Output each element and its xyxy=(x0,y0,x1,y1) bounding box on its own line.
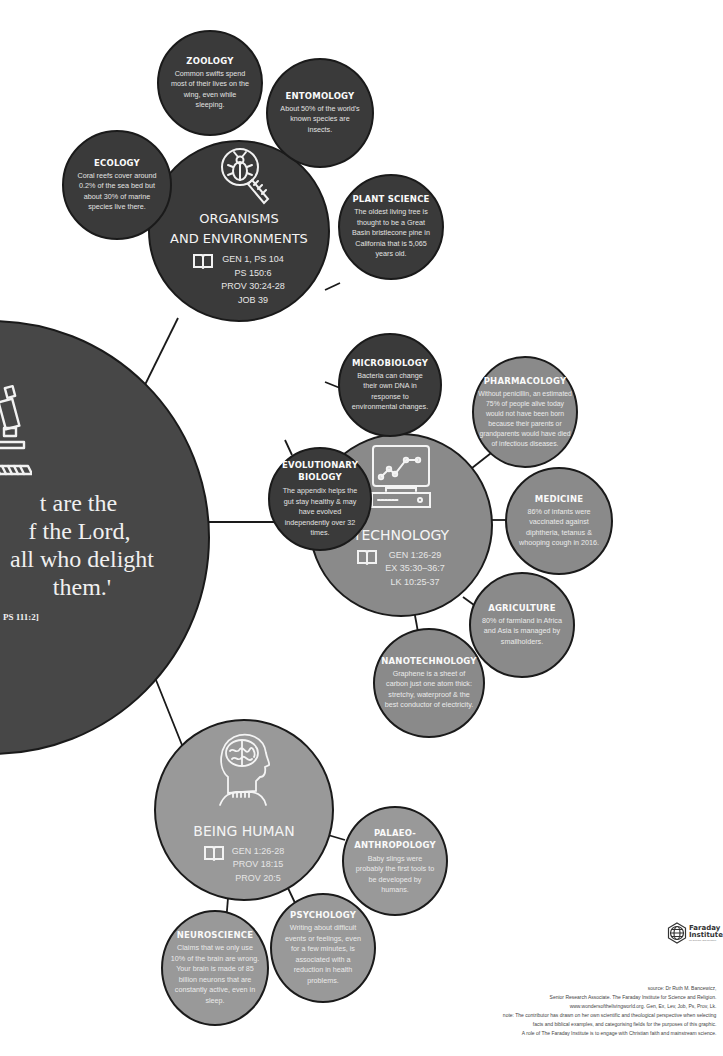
fact-title: ZOOLOGY xyxy=(186,56,233,66)
fact-neuroscience: NEUROSCIENCE Claims that we only use 10%… xyxy=(161,910,269,1026)
fact-pharmacology: PHARMACOLOGY Without penicillin, an esti… xyxy=(472,356,578,468)
fact-ecology: ECOLOGY Coral reefs cover around 0.2% of… xyxy=(62,130,172,240)
quote-line-4: them.' xyxy=(10,573,154,601)
fact-text: Without penicillin, an estimated 75% of … xyxy=(474,389,576,449)
globe-hexagon-icon xyxy=(667,922,687,944)
faraday-institute-logo: Faraday Institute for Science and Religi… xyxy=(667,922,723,944)
ref-line: EX 35:30–36:7 xyxy=(385,562,445,576)
hub-title-line-2: AND ENVIRONMENTS xyxy=(170,229,308,249)
fact-text: Baby slings were probably the first tool… xyxy=(344,854,446,896)
footer-line: A role of The Faraday Institute is to en… xyxy=(502,1028,716,1037)
logo-line-2: Institute xyxy=(689,932,723,939)
microscope-icon xyxy=(0,382,32,477)
fact-title: ECOLOGY xyxy=(94,158,140,168)
fact-title: PHARMACOLOGY xyxy=(484,376,567,386)
fact-title: PSYCHOLOGY xyxy=(290,910,356,920)
fact-text: Claims that we only use 10% of the brain… xyxy=(163,943,267,1006)
fact-text: Writing about difficult events or feelin… xyxy=(272,923,374,986)
ref-line: PROV 30:24-28 xyxy=(221,280,285,294)
ref-line: JOB 39 xyxy=(221,294,285,308)
fact-title: NANOTECHNOLOGY xyxy=(381,656,476,666)
fact-text: Coral reefs cover around 0.2% of the sea… xyxy=(64,171,170,213)
fact-title: PALAEO-ANTHROPOLOGY xyxy=(336,827,454,851)
fact-psychology: PSYCHOLOGY Writing about difficult event… xyxy=(270,893,376,1003)
fact-plant-science: PLANT SCIENCE The oldest living tree is … xyxy=(338,174,444,280)
hub-organisms-environments: ORGANISMS AND ENVIRONMENTS GEN 1, PS 104… xyxy=(148,140,330,322)
fact-nanotechnology: NANOTECHNOLOGY Graphene is a sheet of ca… xyxy=(373,628,485,738)
ref-line: LK 10:25-37 xyxy=(385,576,445,590)
head-brain-icon xyxy=(216,731,272,807)
ref-line: GEN 1:26-28 xyxy=(232,845,285,859)
fact-title: AGRICULTURE xyxy=(488,603,556,613)
ref-line: GEN 1:26-29 xyxy=(385,549,445,563)
fact-text: The oldest living tree is thought to be … xyxy=(340,207,442,260)
footer-line: source: Dr Ruth M. Bancewicz, xyxy=(502,983,716,992)
quote-line-3: all who delight xyxy=(10,545,154,573)
fact-title: ENTOMOLOGY xyxy=(286,91,355,101)
footer-line: www.wondersofthelivingworld.org. Gen, Ex… xyxy=(502,1001,716,1010)
ref-line: PS 150:6 xyxy=(221,267,285,281)
fact-palaeoanthropology: PALAEO-ANTHROPOLOGY Baby slings were pro… xyxy=(342,806,448,916)
ref-line: PROV 18:15 xyxy=(232,858,285,872)
fact-text: 80% of farmland in Africa and Asia is ma… xyxy=(471,616,573,648)
ref-line: GEN 1, PS 104 xyxy=(221,253,285,267)
fact-text: 86% of infants were vaccinated against d… xyxy=(507,507,611,549)
quote-line-1: t are the xyxy=(3,489,154,517)
footer-line: note: The contributor has drawn on her o… xyxy=(502,1010,716,1019)
fact-title: MICROBIOLOGY xyxy=(352,358,428,368)
fact-text: About 50% of the world's known species a… xyxy=(268,104,372,136)
computer-chart-icon xyxy=(370,443,432,509)
fact-title: MEDICINE xyxy=(535,494,583,504)
fact-text: Bacteria can change their own DNA in res… xyxy=(340,371,440,413)
fact-evolutionary-biology: EVOLUTIONARY BIOLOGY The appendix helps … xyxy=(268,447,372,551)
bible-book-icon xyxy=(357,549,377,565)
fact-zoology: ZOOLOGY Common swifts spend most of thei… xyxy=(157,30,263,136)
quote-line-2: f the Lord, xyxy=(5,517,154,545)
fact-title: PLANT SCIENCE xyxy=(352,194,429,204)
hub-being-human: BEING HUMAN GEN 1:26-28 PROV 18:15 PROV … xyxy=(154,719,334,901)
fact-text: The appendix helps the gut stay healthy … xyxy=(270,486,370,539)
hub-title-line-1: ORGANISMS xyxy=(170,209,308,229)
fact-agriculture: AGRICULTURE 80% of farmland in Africa an… xyxy=(469,572,575,678)
fact-medicine: MEDICINE 86% of infants were vaccinated … xyxy=(505,467,613,575)
fact-title: NEUROSCIENCE xyxy=(177,930,253,940)
beetle-magnifier-icon xyxy=(216,143,276,205)
footer-line: facts and biblical examples, and categor… xyxy=(502,1019,716,1028)
footer-line: Senior Research Associate. The Faraday I… xyxy=(502,992,716,1001)
ref-line: PROV 20:5 xyxy=(232,872,285,886)
source-footer: source: Dr Ruth M. Bancewicz, Senior Res… xyxy=(502,983,716,1037)
logo-tagline: for Science and Religion xyxy=(689,939,723,942)
fact-text: Graphene is a sheet of carbon just one a… xyxy=(375,669,483,711)
hub-title-line-1: BEING HUMAN xyxy=(193,821,294,841)
fact-text: Common swifts spend most of their lives … xyxy=(159,69,261,111)
quote-reference: PS 111:2] xyxy=(3,612,39,622)
fact-entomology: ENTOMOLOGY About 50% of the world's know… xyxy=(266,58,374,168)
fact-title: EVOLUTIONARY BIOLOGY xyxy=(266,459,374,483)
fact-microbiology: MICROBIOLOGY Bacteria can change their o… xyxy=(338,333,442,437)
bible-book-icon xyxy=(193,253,213,269)
bible-book-icon xyxy=(204,845,224,861)
